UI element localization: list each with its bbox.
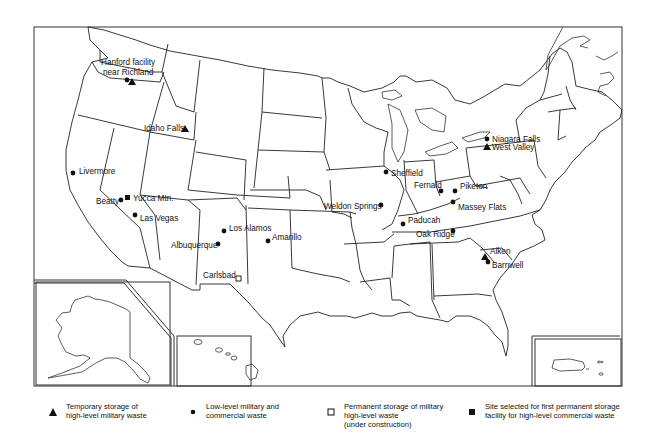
site-aiken[interactable]: Aiken [481, 247, 511, 260]
site-los-alamos[interactable]: Los Alamos [222, 224, 272, 233]
svg-text:Piketon: Piketon [460, 182, 488, 191]
svg-text:Albuquerque: Albuquerque [171, 241, 218, 250]
site-markers: Hanford facility near Richland Idaho Fal… [71, 58, 541, 281]
low-level-marker [266, 239, 271, 244]
svg-text:Livermore: Livermore [79, 167, 116, 176]
site-idaho-falls[interactable]: Idaho Falls [144, 124, 189, 133]
site-oak-ridge[interactable]: Oak Ridge [416, 229, 455, 239]
us-map: Hanford facility near Richland Idaho Fal… [0, 0, 652, 400]
temporary-storage-marker [481, 253, 489, 260]
svg-text:Massey Flats: Massey Flats [458, 203, 506, 212]
low-level-marker [133, 213, 138, 218]
low-level-marker [222, 229, 227, 234]
legend-text-line: Temporary storage of [66, 402, 147, 411]
low-level-marker [125, 78, 130, 83]
svg-text:Fernald: Fernald [414, 181, 442, 190]
legend-item-low-level: Low-level military and commercial waste [188, 402, 279, 420]
low-level-marker [216, 242, 221, 247]
site-yucca-mtn[interactable]: Yucca Mtn. [125, 194, 174, 203]
svg-text:Oak Ridge: Oak Ridge [416, 230, 455, 239]
legend-text-line: high-level waste [344, 411, 443, 420]
svg-text:Aiken: Aiken [490, 247, 511, 256]
legend-text-line: facility for high-level commercial waste [485, 411, 620, 420]
svg-text:Carlsbad: Carlsbad [203, 271, 236, 280]
inset-frames [34, 280, 621, 386]
svg-text:Yucca Mtn.: Yucca Mtn. [133, 194, 174, 203]
great-lakes [382, 90, 490, 162]
svg-text:Amarillo: Amarillo [272, 233, 302, 242]
svg-text:Sheffield: Sheffield [391, 169, 423, 178]
svg-text:Weldon Springs: Weldon Springs [324, 202, 382, 211]
legend-text-line: (under construction) [344, 420, 443, 429]
site-paducah[interactable]: Paducah [401, 216, 441, 226]
svg-text:Barnwell: Barnwell [492, 261, 524, 270]
legend-text-line: commercial waste [206, 411, 279, 420]
low-level-marker [384, 170, 389, 175]
svg-text:West Valley: West Valley [492, 143, 535, 152]
site-las-vegas[interactable]: Las Vegas [133, 213, 179, 223]
legend-text-line: Site selected for first permanent storag… [485, 402, 620, 411]
low-level-marker [453, 189, 458, 194]
site-beatty[interactable]: Beatty [96, 197, 123, 206]
svg-text:Idaho Falls: Idaho Falls [144, 124, 184, 133]
svg-text:Beatty: Beatty [96, 197, 120, 206]
low-level-marker [451, 229, 456, 234]
legend-item-commercial-site: Site selected for first permanent storag… [467, 402, 620, 420]
filled-triangle-icon [48, 407, 58, 417]
site-piketon[interactable]: Piketon [453, 182, 488, 193]
legend-text-line: high-level military waste [66, 411, 147, 420]
low-level-marker [485, 137, 490, 142]
low-level-marker [379, 203, 384, 208]
temporary-storage-marker [483, 143, 491, 150]
svg-text:Las Vegas: Las Vegas [140, 214, 178, 223]
site-albuquerque[interactable]: Albuquerque [171, 241, 220, 250]
map-legend: Temporary storage of high-level military… [0, 402, 652, 442]
low-level-marker [71, 171, 76, 176]
legend-item-permanent-military: Permanent storage of military high-level… [326, 402, 443, 429]
svg-text:near Richland: near Richland [103, 68, 154, 77]
filled-square-icon [467, 407, 477, 417]
svg-text:Paducah: Paducah [408, 216, 441, 225]
site-massey-flats[interactable]: Massey Flats [451, 200, 507, 212]
commercial-permanent-marker [125, 195, 130, 200]
open-square-icon [326, 407, 336, 417]
site-barnwell[interactable]: Barnwell [486, 260, 524, 270]
svg-text:Hanford facility: Hanford facility [101, 58, 156, 67]
site-fernald[interactable]: Fernald [414, 181, 443, 193]
low-level-marker [451, 200, 456, 205]
low-level-marker [439, 189, 444, 194]
svg-text:Los Alamos: Los Alamos [229, 224, 271, 233]
low-level-marker [486, 260, 491, 265]
canada-coastline [546, 27, 618, 96]
site-weldon-springs[interactable]: Weldon Springs [324, 202, 383, 211]
site-amarillo[interactable]: Amarillo [266, 233, 302, 243]
alaska-outline [48, 296, 150, 383]
puerto-rico [552, 359, 603, 375]
legend-text-line: Low-level military and [206, 402, 279, 411]
military-permanent-marker [236, 276, 241, 281]
legend-text-line: Permanent storage of military [344, 402, 443, 411]
low-level-marker [401, 222, 406, 227]
site-carlsbad[interactable]: Carlsbad [203, 271, 241, 281]
filled-circle-icon [188, 407, 198, 417]
site-west-valley[interactable]: West Valley [483, 143, 535, 152]
legend-item-temporary-storage: Temporary storage of high-level military… [48, 402, 147, 420]
site-livermore[interactable]: Livermore [71, 167, 116, 176]
hawaii-islands [194, 340, 258, 381]
low-level-marker [119, 198, 124, 203]
